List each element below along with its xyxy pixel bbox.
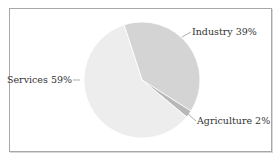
pie-chart: Industry 39% Agriculture 2% Services 59% (0, 0, 277, 161)
agriculture-leader-line (188, 114, 196, 121)
industry-label: Industry 39% (192, 26, 257, 37)
agriculture-label: Agriculture 2% (196, 115, 270, 126)
services-label: Services 59% (7, 74, 72, 85)
industry-leader-line (182, 32, 191, 37)
pie-slices (84, 22, 200, 138)
